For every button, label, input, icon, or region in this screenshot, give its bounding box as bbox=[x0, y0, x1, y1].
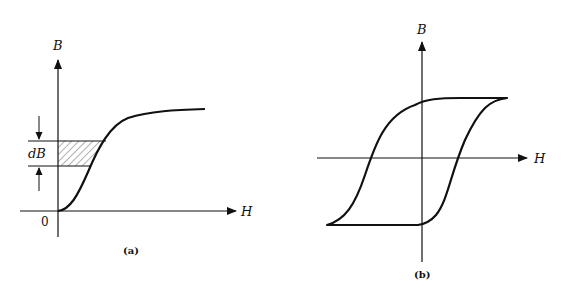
figure-b: B H (b) bbox=[317, 22, 546, 280]
figure-a: B H 0 dB (a) bbox=[20, 38, 253, 256]
h-axis-label-a: H bbox=[240, 204, 253, 219]
db-arrowhead-up-icon bbox=[36, 167, 43, 175]
hysteresis-loop bbox=[327, 98, 507, 225]
b-axis-label-a: B bbox=[52, 38, 63, 53]
db-arrowhead-down-icon bbox=[36, 132, 43, 140]
b-axis-label-b: B bbox=[416, 22, 427, 37]
h-axis-label-b: H bbox=[533, 151, 546, 166]
origin-label: 0 bbox=[41, 215, 49, 229]
db-label: dB bbox=[28, 146, 46, 161]
diagram-canvas: B H 0 dB (a) B H (b) bbox=[0, 0, 567, 290]
caption-b: (b) bbox=[414, 269, 430, 280]
caption-a: (a) bbox=[123, 245, 139, 256]
hatched-db-region bbox=[58, 141, 105, 166]
